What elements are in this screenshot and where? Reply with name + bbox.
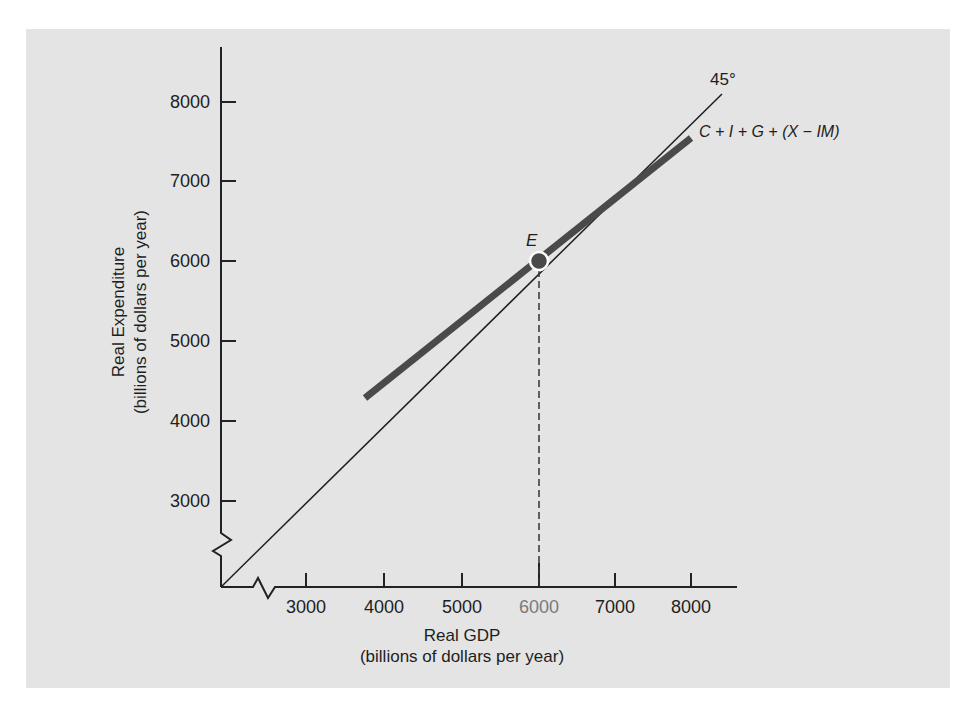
equilibrium-label: E <box>526 231 538 250</box>
x-tick-label-highlighted: 6000 <box>519 597 559 617</box>
y-axis-subtitle: (billions of dollars per year) <box>131 210 150 414</box>
y-axis: 8000 7000 6000 5000 4000 3000 <box>170 47 236 587</box>
y-axis-title: Real Expenditure <box>109 247 128 377</box>
chart-svg: 8000 7000 6000 5000 4000 3000 3000 4000 … <box>0 0 978 718</box>
y-tick-label: 6000 <box>170 251 210 271</box>
y-tick-label: 4000 <box>170 411 210 431</box>
45-degree-line <box>221 94 722 587</box>
y-tick-label: 7000 <box>170 171 210 191</box>
x-tick-label: 7000 <box>595 597 635 617</box>
x-tick-label: 5000 <box>442 597 482 617</box>
aggregate-expenditure-line <box>365 138 691 398</box>
equilibrium-point <box>530 252 548 270</box>
x-tick-label: 3000 <box>286 597 326 617</box>
x-axis-subtitle: (billions of dollars per year) <box>360 647 564 666</box>
aggregate-expenditure-label: C + I + G + (X − IM) <box>699 123 839 140</box>
y-tick-label: 5000 <box>170 331 210 351</box>
y-tick-label: 8000 <box>170 92 210 112</box>
45-degree-label: 45° <box>710 70 736 89</box>
y-tick-label: 3000 <box>170 491 210 511</box>
x-tick-label: 4000 <box>364 597 404 617</box>
x-tick-label: 8000 <box>671 597 711 617</box>
x-axis-title: Real GDP <box>424 626 501 645</box>
x-axis: 3000 4000 5000 6000 7000 8000 <box>221 563 737 617</box>
